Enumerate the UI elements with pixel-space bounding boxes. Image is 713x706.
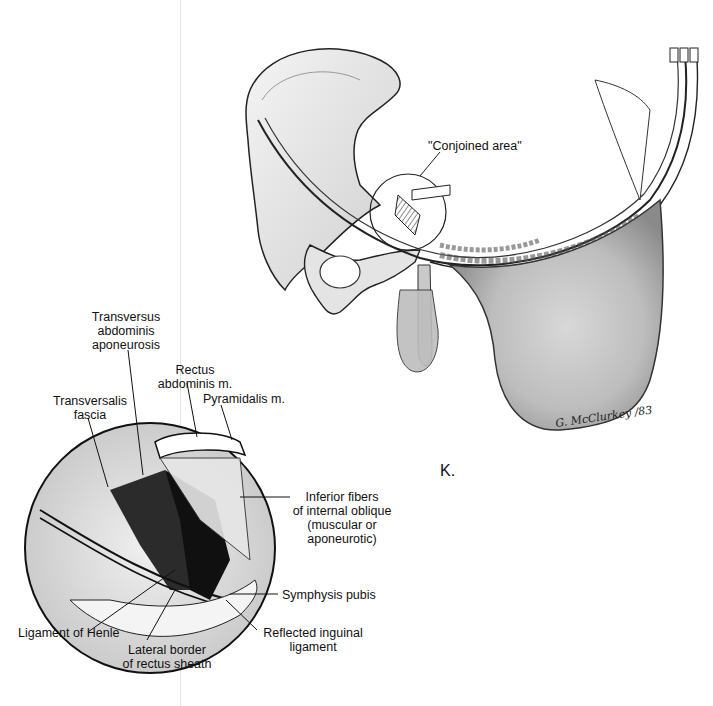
label-line: Rectus — [152, 363, 238, 377]
label-transversalis-fascia: Transversalis fascia — [50, 394, 130, 422]
label-line: abdominis m. — [152, 377, 238, 391]
label-line: abdominis — [86, 324, 166, 338]
panel-letter: K. — [440, 462, 455, 480]
lower-abdomen-skin — [397, 200, 663, 430]
label-inferior-fibers-internal-oblique: Inferior fibers of internal oblique (mus… — [287, 490, 397, 546]
label-line: fascia — [50, 408, 130, 422]
label-pyramidalis: Pyramidalis m. — [203, 392, 285, 406]
label-rectus-abdominis: Rectus abdominis m. — [152, 363, 238, 391]
label-line: Inferior fibers — [287, 490, 397, 504]
label-reflected-inguinal-ligament: Reflected inguinal ligament — [258, 626, 368, 654]
label-line: Lateral border — [114, 643, 220, 657]
label-ligament-of-henle: Ligament of Henle — [18, 626, 119, 640]
conjoined-area-leader — [420, 152, 440, 176]
label-line: of internal oblique — [287, 504, 397, 518]
label-transversus-abdominis-aponeurosis: Transversus abdominis aponeurosis — [86, 310, 166, 352]
label-line: aponeurotic) — [287, 532, 397, 546]
label-lateral-border-rectus-sheath: Lateral border of rectus sheath — [114, 643, 220, 671]
label-line: Reflected inguinal — [258, 626, 368, 640]
label-line: (muscular or — [287, 518, 397, 532]
label-line: Transversalis — [50, 394, 130, 408]
label-line: Transversus — [86, 310, 166, 324]
label-conjoined-area: "Conjoined area" — [428, 139, 522, 153]
label-symphysis-pubis: Symphysis pubis — [282, 588, 376, 602]
label-line: of rectus sheath — [114, 657, 220, 671]
label-line: aponeurosis — [86, 338, 166, 352]
label-line: ligament — [258, 640, 368, 654]
